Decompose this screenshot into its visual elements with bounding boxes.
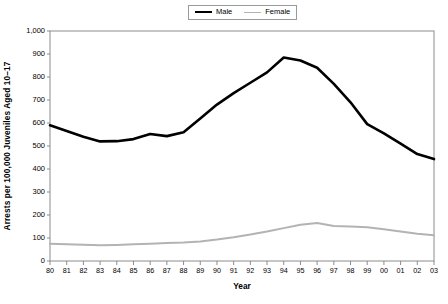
y-axis-tick-labels: 01002003004005006007008009001,000 [14,0,45,304]
x-axis-tick-label: 80 [46,266,54,275]
y-axis-tick-label: 500 [14,142,45,150]
y-axis-tick-label: 200 [14,211,45,219]
y-axis-tick-label: 100 [14,234,45,242]
x-axis-tick-label: 97 [330,266,338,275]
x-axis-tick-label: 99 [363,266,371,275]
y-axis-tick-label: 600 [14,119,45,127]
x-axis-tick-label: 86 [146,266,154,275]
x-axis-tick-label: 01 [397,266,405,275]
legend-label-male: Male [216,7,232,17]
legend-entry-male: Male [195,7,232,17]
plot-area [0,0,448,304]
plot-frame [50,31,434,261]
x-axis-tick-label: 84 [113,266,121,275]
y-axis-tick-label: 400 [14,165,45,173]
x-axis-tick-label: 00 [380,266,388,275]
y-axis-title-text: Arrests per 100,000 Juveniles Aged 10–17 [2,62,12,231]
y-axis-title: Arrests per 100,000 Juveniles Aged 10–17 [0,31,14,261]
line-swatch-male-icon [195,11,212,13]
x-axis-tick-label: 94 [280,266,288,275]
chart-container: Male Female Arrests per 100,000 Juvenile… [0,0,448,304]
y-axis-tick-label: 900 [14,50,45,58]
x-axis-title-text: Year [233,281,251,291]
x-axis-tick-label: 83 [96,266,104,275]
x-axis-tick-label: 95 [296,266,304,275]
y-axis-tick-label: 700 [14,96,45,104]
series-line-female [50,223,434,245]
x-axis-tick-label: 92 [246,266,254,275]
x-axis-title: Year [50,281,434,291]
y-axis-tick-label: 0 [14,257,45,265]
chart-legend: Male Female [188,5,297,20]
x-axis-tick-label: 89 [196,266,204,275]
x-axis-tick-label: 03 [430,266,438,275]
y-axis-tick-label: 800 [14,73,45,81]
y-axis-tick-label: 300 [14,188,45,196]
legend-label-female: Female [265,7,290,17]
x-axis-tick-label: 91 [230,266,238,275]
x-axis-tick-label: 81 [63,266,71,275]
x-axis-tick-label: 02 [413,266,421,275]
x-axis-tick-label: 87 [163,266,171,275]
x-axis-tick-label: 90 [213,266,221,275]
x-axis-tick-label: 85 [129,266,137,275]
x-axis-tick-label: 93 [263,266,271,275]
x-axis-tick-labels: 8081828384858687888990919293949596979899… [0,266,448,280]
x-axis-tick-label: 82 [79,266,87,275]
y-axis-tick-label: 1,000 [14,27,45,35]
series-line-male [50,57,434,159]
legend-entry-female: Female [244,7,290,17]
x-axis-tick-label: 88 [180,266,188,275]
line-swatch-female-icon [244,12,261,13]
x-axis-tick-label: 96 [313,266,321,275]
x-axis-tick-label: 98 [347,266,355,275]
